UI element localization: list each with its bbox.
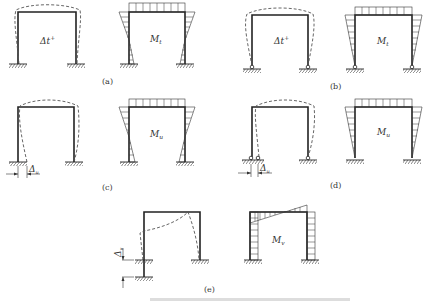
- moment-label: Mu: [376, 127, 390, 138]
- delta-t-label: Δt+: [39, 34, 55, 46]
- panel-a: Δt+ Mt (a): [9, 3, 195, 86]
- panel-d: Δu Mu (d): [238, 99, 422, 190]
- pin-support-right: [306, 156, 310, 160]
- deflected-shape: [255, 100, 314, 157]
- panel-a-caption: (a): [102, 77, 113, 86]
- panel-c-deformation: Δu: [6, 100, 83, 178]
- panel-d-moment-diagram: Mu: [345, 99, 422, 164]
- panel-b-moment-diagram: Mt: [345, 7, 422, 73]
- structural-frames-diagram: Δt+ Mt (a): [0, 0, 425, 303]
- panel-b-deformation: Δt+: [243, 8, 317, 73]
- deflected-shape: [15, 5, 81, 64]
- panel-c-moment-diagram: Mu: [119, 99, 195, 166]
- panel-d-caption: (d): [330, 181, 341, 190]
- figure-caption-illegible: [150, 298, 350, 301]
- pin-support-left: [250, 65, 254, 69]
- left-column-moment: [119, 12, 134, 64]
- delta-t-label: Δt+: [273, 34, 289, 46]
- right-column-moment: [412, 107, 422, 158]
- moment-label: Mu: [149, 129, 163, 140]
- panel-b: Δt+ Mt (b): [243, 7, 422, 91]
- panel-a-moment-diagram: Mt: [119, 3, 195, 68]
- panel-d-deformation: Δu: [238, 100, 317, 177]
- displacement-dimension: Δu: [238, 163, 272, 177]
- settlement-dimension: Δv: [113, 248, 134, 289]
- panel-e-caption: (e): [204, 285, 215, 294]
- right-column-moment: [179, 107, 195, 162]
- panel-b-caption: (b): [330, 82, 341, 91]
- deflected-shape: [140, 212, 199, 260]
- left-column-moment: [345, 15, 355, 66]
- right-column-moment: [180, 12, 195, 64]
- right-column-moment: [412, 15, 422, 66]
- delta-u-label: Δu: [259, 163, 270, 174]
- pin-support-left-displaced: [256, 156, 260, 160]
- moment-label: Mt: [376, 36, 389, 47]
- delta-v-label: Δv: [113, 248, 124, 259]
- panel-e-moment-diagram: Mv: [244, 205, 319, 264]
- panel-c-caption: (c): [102, 183, 113, 192]
- panel-e-deformation: Δv: [113, 212, 209, 288]
- moment-label: Mv: [271, 235, 285, 246]
- panel-c: Δu Mu (c): [6, 99, 195, 192]
- beam-moment: [355, 7, 412, 15]
- pin-support-left: [249, 156, 253, 160]
- panel-a-deformation: Δt+: [9, 5, 85, 68]
- beam-hatch: [136, 3, 178, 12]
- fixed-support-left: [9, 64, 27, 68]
- displacement-dimension: Δu: [6, 164, 40, 178]
- delta-u-label: Δu: [28, 164, 39, 175]
- beam-moment: [250, 205, 307, 223]
- left-column-moment: [119, 107, 135, 162]
- left-column-moment: [345, 107, 355, 158]
- moment-label: Mt: [149, 34, 162, 45]
- beam-moment: [355, 99, 412, 107]
- fixed-support-right: [67, 64, 85, 68]
- panel-e: Δv Mv (e): [113, 205, 319, 294]
- pin-support-right: [306, 65, 310, 69]
- deflected-shape: [19, 100, 78, 162]
